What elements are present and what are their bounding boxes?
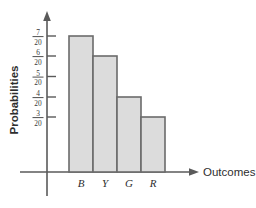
- x-tick-label-G: G: [125, 177, 133, 189]
- fraction-numerator: 5: [36, 69, 40, 78]
- y-tick-label-3-20: 3 20: [33, 109, 44, 128]
- x-tick-label-R: R: [149, 177, 157, 189]
- bar-Y: [93, 56, 117, 172]
- fraction-numerator: 4: [36, 89, 40, 98]
- y-axis-tick-labels: 7 20 6 20 5 20 4 20 3 2: [33, 28, 44, 128]
- x-axis-title: Outcomes: [203, 166, 256, 178]
- bar-R: [141, 117, 165, 172]
- bar-series: [69, 36, 165, 172]
- y-axis-ticks: [47, 36, 56, 117]
- x-axis-tick-labels: B Y G R: [78, 177, 157, 189]
- bar-chart-figure: 7 20 6 20 5 20 4 20 3 2: [0, 0, 256, 208]
- x-tick-label-Y: Y: [102, 177, 110, 189]
- arrow-up-icon: [43, 11, 51, 21]
- y-axis-title: Probabilities: [8, 65, 20, 134]
- x-tick-label-B: B: [78, 177, 85, 189]
- y-axis: [43, 11, 51, 196]
- bar-G: [117, 97, 141, 172]
- fraction-denominator: 20: [34, 99, 42, 108]
- fraction-numerator: 7: [36, 28, 40, 37]
- fraction-numerator: 3: [36, 109, 40, 118]
- arrow-right-icon: [189, 168, 199, 176]
- fraction-denominator: 20: [34, 38, 42, 47]
- fraction-denominator: 20: [34, 119, 42, 128]
- chart-canvas: 7 20 6 20 5 20 4 20 3 2: [0, 0, 256, 208]
- fraction-denominator: 20: [34, 78, 42, 87]
- y-tick-label-6-20: 6 20: [33, 48, 44, 67]
- y-tick-label-5-20: 5 20: [33, 69, 44, 88]
- bar-B: [69, 36, 93, 172]
- fraction-numerator: 6: [36, 48, 40, 57]
- y-tick-label-4-20: 4 20: [33, 89, 44, 108]
- y-tick-label-7-20: 7 20: [33, 28, 44, 47]
- fraction-denominator: 20: [34, 58, 42, 67]
